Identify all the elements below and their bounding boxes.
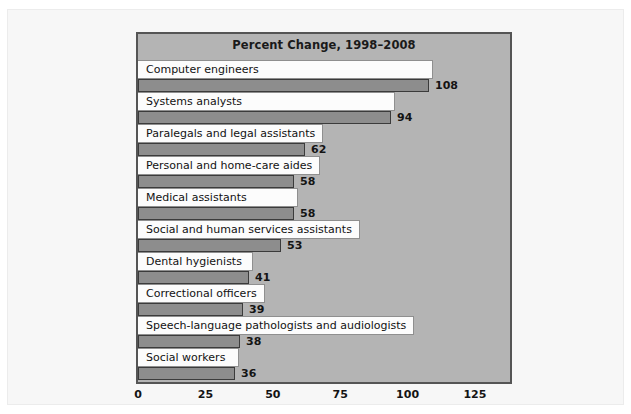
bar-category-label-strip: Speech-language pathologists and audiolo… — [138, 316, 414, 335]
bar-row: Correctional officers39 — [138, 284, 510, 316]
bar — [138, 271, 249, 284]
bar — [138, 143, 305, 156]
bar-track: 39 — [138, 303, 510, 316]
bar-track: 41 — [138, 271, 510, 284]
bar-value-label: 94 — [397, 110, 412, 125]
bar-row: Systems analysts94 — [138, 92, 510, 124]
bar-category-label: Paralegals and legal assistants — [146, 127, 315, 140]
bar-row: Dental hygienists41 — [138, 252, 510, 284]
bar-row: Computer engineers108 — [138, 60, 510, 92]
bar-category-label: Speech-language pathologists and audiolo… — [146, 319, 406, 332]
bar-value-label: 36 — [241, 366, 256, 381]
x-tick-label: 0 — [134, 388, 142, 401]
bar-value-label: 41 — [255, 270, 270, 285]
bar-category-label: Personal and home-care aides — [146, 159, 312, 172]
x-axis: 0255075100125 — [136, 384, 512, 414]
x-tick-label: 50 — [265, 388, 280, 401]
bar-category-label: Correctional officers — [146, 287, 257, 300]
bar-category-label-strip: Systems analysts — [138, 92, 395, 111]
bar — [138, 111, 391, 124]
bar-row: Paralegals and legal assistants62 — [138, 124, 510, 156]
bar-value-label: 39 — [249, 302, 264, 317]
x-tick-label: 75 — [333, 388, 348, 401]
bar-category-label: Social workers — [146, 351, 225, 364]
bar — [138, 303, 243, 316]
bar-category-label: Computer engineers — [146, 63, 259, 76]
bar — [138, 239, 281, 252]
bar-category-label: Social and human services assistants — [146, 223, 352, 236]
bar-value-label: 58 — [300, 174, 315, 189]
bar-row: Medical assistants58 — [138, 188, 510, 220]
bar-value-label: 62 — [311, 142, 326, 157]
bar-row: Speech-language pathologists and audiolo… — [138, 316, 510, 348]
bar — [138, 335, 240, 348]
bar-category-label-strip: Correctional officers — [138, 284, 265, 303]
bar-row: Social workers36 — [138, 348, 510, 380]
bar-category-label-strip: Paralegals and legal assistants — [138, 124, 323, 143]
bar-track: 53 — [138, 239, 510, 252]
bar-value-label: 53 — [287, 238, 302, 253]
x-tick-label: 100 — [396, 388, 419, 401]
bar-track: 94 — [138, 111, 510, 124]
bar-track: 58 — [138, 207, 510, 220]
bar-category-label-strip: Social and human services assistants — [138, 220, 360, 239]
x-tick-label: 25 — [198, 388, 213, 401]
bar-category-label-strip: Medical assistants — [138, 188, 298, 207]
bar-value-label: 58 — [300, 206, 315, 221]
bar-track: 58 — [138, 175, 510, 188]
bar-track: 36 — [138, 367, 510, 380]
bar-category-label-strip: Personal and home-care aides — [138, 156, 320, 175]
bar-category-label: Systems analysts — [146, 95, 242, 108]
chart-title: Percent Change, 1998–2008 — [138, 38, 510, 52]
x-tick-label: 125 — [463, 388, 486, 401]
bar — [138, 207, 294, 220]
bar-category-label-strip: Social workers — [138, 348, 239, 367]
figure-frame: Percent Change, 1998–2008 Computer engin… — [7, 9, 624, 405]
bar-category-label: Medical assistants — [146, 191, 247, 204]
bar-row: Social and human services assistants53 — [138, 220, 510, 252]
bar-value-label: 38 — [246, 334, 261, 349]
bar — [138, 79, 429, 92]
bar — [138, 175, 294, 188]
bar-track: 62 — [138, 143, 510, 156]
bar-category-label-strip: Computer engineers — [138, 60, 433, 79]
bar-row: Personal and home-care aides58 — [138, 156, 510, 188]
bar-category-label: Dental hygienists — [146, 255, 242, 268]
bar-track: 108 — [138, 79, 510, 92]
bar-category-label-strip: Dental hygienists — [138, 252, 253, 271]
bar — [138, 367, 235, 380]
bar-rows-container: Computer engineers108Systems analysts94P… — [138, 60, 510, 380]
bar-value-label: 108 — [435, 78, 458, 93]
bar-track: 38 — [138, 335, 510, 348]
chart-plot-panel: Percent Change, 1998–2008 Computer engin… — [136, 32, 512, 384]
